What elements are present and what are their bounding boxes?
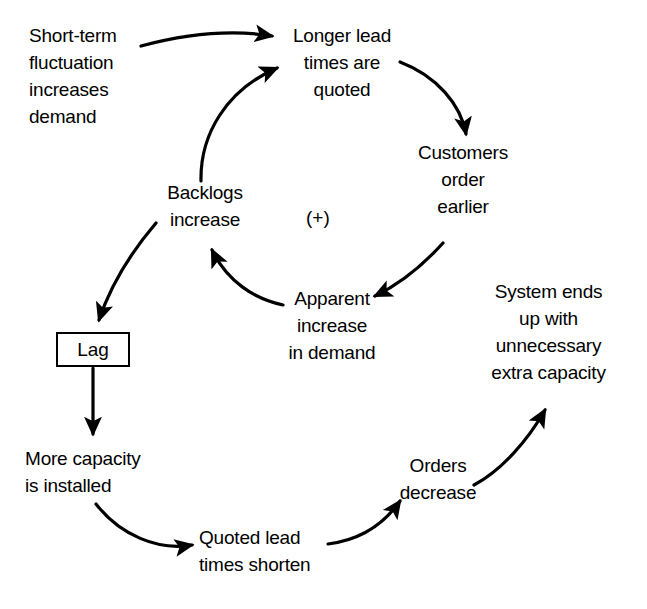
node-customers-order-earlier: Customers order earlier [404,139,522,220]
edge-backlogs-to-longer-lead [201,68,277,181]
node-short-term-fluctuation: Short-term fluctuation increases demand [29,22,159,130]
node-lag-box: Lag [56,332,130,367]
edge-apparent-to-backlogs [212,250,283,305]
node-more-capacity-installed: More capacity is installed [25,445,175,499]
diagram-canvas: Short-term fluctuation increases demand … [0,0,647,609]
edge-backlogs-to-lag [99,223,156,320]
node-backlogs-increase: Backlogs increase [155,179,255,233]
node-quoted-lead-times-shorten: Quoted lead times shorten [199,524,349,578]
node-apparent-increase-in-demand: Apparent increase in demand [276,285,388,366]
loop-polarity-sign: (+) [306,207,330,229]
edge-short-term-to-longer-lead [141,33,272,46]
edge-more-capacity-to-quoted-lead [96,504,192,546]
node-orders-decrease: Orders decrease [386,452,490,506]
node-system-extra-capacity: System ends up with unnecessary extra ca… [473,278,624,386]
node-lag-label: Lag [77,339,109,361]
node-longer-lead-times-quoted: Longer lead times are quoted [272,22,412,103]
